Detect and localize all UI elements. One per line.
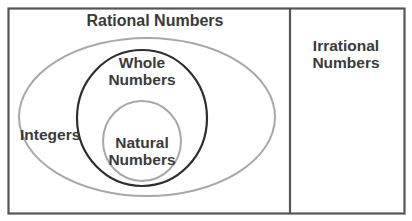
rational-numbers-label: Rational Numbers [60,12,250,30]
natural-label-line2: Numbers [108,151,176,168]
whole-numbers-label: Whole Numbers [104,54,180,89]
whole-label-line1: Whole [104,54,180,71]
integers-label: Integers [20,126,80,143]
diagram-shapes [0,0,412,221]
natural-numbers-label: Natural Numbers [108,134,176,169]
irrational-numbers-label: Irrational Numbers [296,37,396,72]
irrational-label-line1: Irrational [296,37,396,54]
whole-label-line2: Numbers [104,71,180,88]
number-system-diagram: Rational Numbers Irrational Numbers Whol… [0,0,412,221]
irrational-label-line2: Numbers [296,54,396,71]
natural-label-line1: Natural [108,134,176,151]
